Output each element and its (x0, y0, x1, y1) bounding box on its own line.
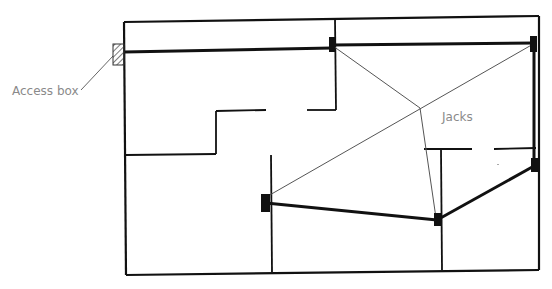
jack-icon (329, 37, 335, 52)
jack-icon (531, 158, 538, 172)
jack-icon (261, 194, 270, 212)
jacks-label: Jacks (442, 110, 473, 124)
access-box-icon (113, 44, 124, 65)
floor-plan (0, 0, 552, 289)
jack-icon (530, 36, 537, 52)
access-box-label: Access box (12, 84, 79, 98)
jack-icon (434, 213, 441, 226)
outer-walls (124, 16, 539, 275)
signal-lines (268, 43, 535, 218)
interior-walls (126, 19, 536, 272)
cable-runs (124, 43, 534, 220)
access-box-leader (81, 56, 113, 90)
jacks (261, 36, 538, 226)
